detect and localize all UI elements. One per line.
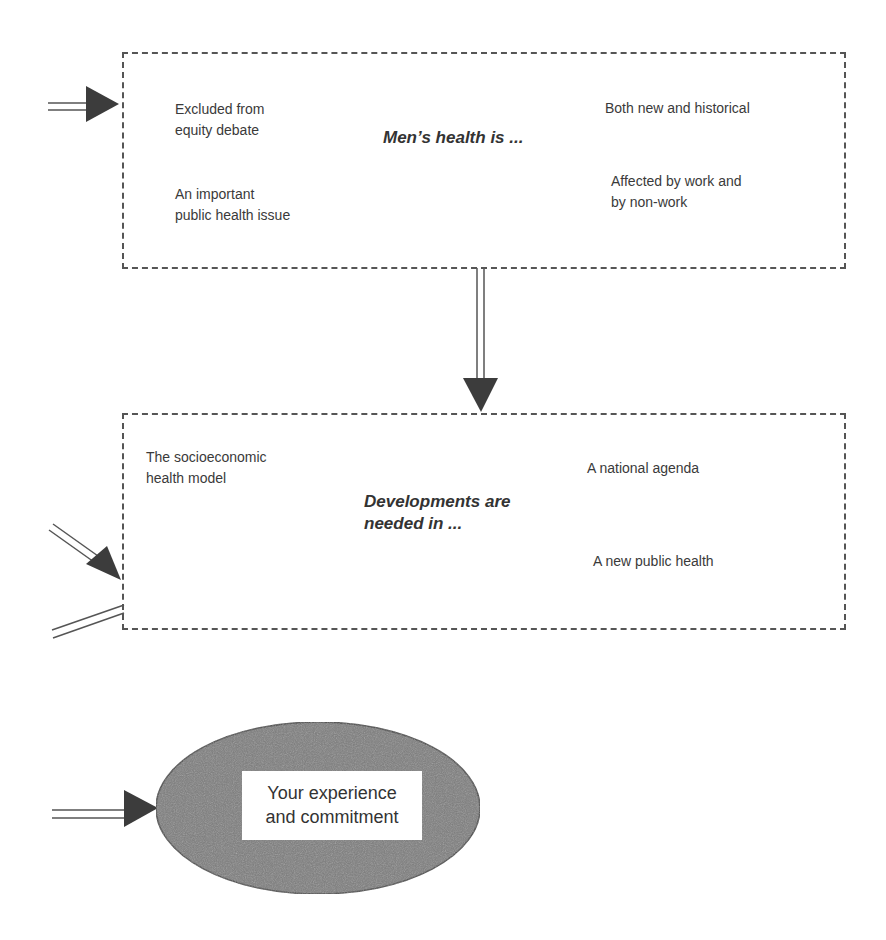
box1-title: Men’s health is ... [383, 127, 523, 149]
box1-item-public-health-issue: An important public health issue [175, 184, 290, 226]
arrow-into-box2-icon [49, 524, 121, 580]
box1-item-work-nonwork: Affected by work and by non-work [611, 171, 741, 213]
arrow-out-of-box2-icon [52, 605, 124, 638]
mens-health-box [122, 52, 846, 269]
arrow-box1-to-box2-icon [463, 268, 498, 412]
arrow-into-box1-icon [48, 86, 119, 122]
box2-item-national-agenda: A national agenda [587, 458, 699, 479]
box1-item-excluded: Excluded from equity debate [175, 99, 264, 141]
arrow-into-oval-icon [52, 790, 158, 827]
box2-title: Developments are needed in ... [364, 491, 510, 535]
commitment-label: Your experience and commitment [242, 771, 422, 840]
box2-item-new-public-health: A new public health [593, 551, 714, 572]
box1-item-new-and-historical: Both new and historical [605, 98, 750, 119]
box2-item-socioeconomic-model: The socioeconomic health model [146, 447, 267, 489]
